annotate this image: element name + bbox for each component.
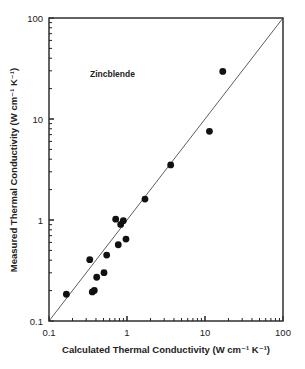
zincblende-annotation: Zincblende	[90, 69, 135, 79]
scatter-chart: 0.1110100 0.1110100 Zincblende Calculate…	[0, 0, 305, 369]
x-tick-label: 0.1	[42, 327, 55, 338]
x-tick-label: 10	[200, 327, 211, 338]
y-axis-title: Measured Thermal Conductivity (W cm⁻¹ K⁻…	[8, 68, 19, 272]
data-points	[63, 68, 226, 298]
data-point	[120, 217, 127, 224]
data-point	[167, 162, 174, 169]
data-point	[86, 256, 93, 263]
x-axis-tick-labels: 0.1110100	[42, 327, 291, 338]
data-point	[103, 252, 110, 259]
y-axis-tick-labels: 0.1110100	[27, 13, 43, 327]
data-point	[101, 269, 108, 276]
x-tick-label: 100	[275, 327, 291, 338]
data-point	[219, 68, 226, 75]
data-point	[93, 274, 100, 281]
data-point	[123, 236, 130, 243]
y-tick-label: 1	[38, 215, 43, 226]
data-point	[142, 196, 149, 203]
data-point	[115, 241, 122, 248]
data-point	[112, 216, 119, 223]
y-tick-label: 100	[27, 13, 43, 24]
data-point	[206, 128, 213, 135]
reference-line-y-equals-x	[49, 18, 283, 321]
x-tick-label: 1	[124, 327, 129, 338]
y-tick-label: 0.1	[30, 316, 43, 327]
y-tick-label: 10	[32, 114, 43, 125]
x-axis-title: Calculated Thermal Conductivity (W cm⁻¹ …	[62, 344, 270, 355]
data-point	[63, 291, 70, 298]
data-point	[91, 287, 98, 294]
